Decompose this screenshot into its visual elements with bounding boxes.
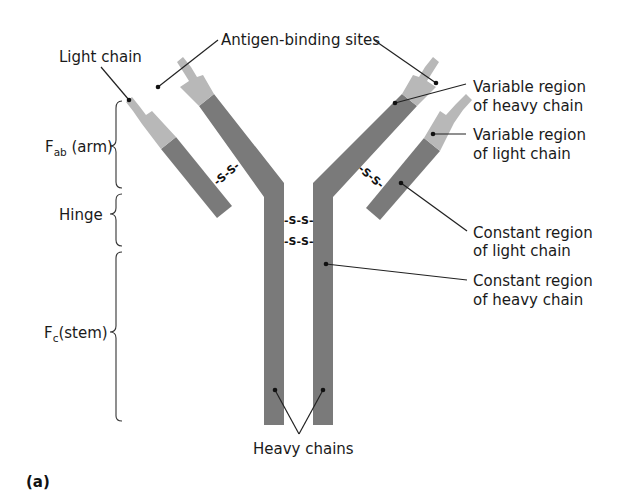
variable-heavy-label-line2: of heavy chain [473, 97, 583, 115]
variable-light-label-line2: of light chain [473, 145, 571, 163]
disulfide-bond-right-arm: -S-S- [356, 162, 387, 191]
fc-bracket [110, 252, 122, 421]
disulfide-bond-left-arm: -S-S- [211, 159, 242, 188]
svg-text:-S-S-: -S-S- [211, 159, 242, 188]
constant-heavy-label-line1: Constant region [473, 272, 593, 290]
disulfide-bond-hinge-lower: -S-S- [284, 235, 314, 248]
right-heavy-chain-constant [313, 94, 417, 425]
fab-label: Fab (arm) [45, 138, 113, 158]
fc-label: Fc(stem) [44, 324, 108, 344]
antigen-binding-sites-label: Antigen-binding sites [221, 31, 380, 49]
constant-light-label-line1: Constant region [473, 224, 593, 242]
right-light-chain-variable [424, 94, 472, 151]
panel-label: (a) [26, 473, 50, 491]
left-light-chain-variable [126, 97, 176, 149]
antibody-diagram: -S-S- -S-S- -S-S- -S-S- Fab (arm) Hinge … [0, 0, 619, 496]
heavy-chains-label: Heavy chains [253, 440, 354, 458]
svg-text:-S-S-: -S-S- [356, 162, 387, 191]
light-chain-label: Light chain [59, 48, 142, 66]
hinge-label: Hinge [59, 206, 103, 224]
constant-heavy-label-line2: of heavy chain [473, 291, 583, 309]
left-heavy-chain-constant [199, 94, 284, 425]
variable-light-label-line1: Variable region [473, 126, 586, 144]
disulfide-bond-hinge-upper: -S-S- [284, 214, 314, 227]
variable-heavy-label-line1: Variable region [473, 78, 586, 96]
hinge-bracket [110, 194, 122, 246]
constant-light-label-line2: of light chain [473, 242, 571, 260]
